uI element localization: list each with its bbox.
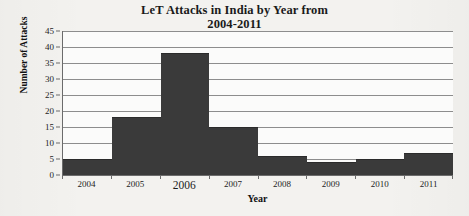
bar-2006 <box>161 53 210 175</box>
y-tick-label-40: 40 <box>24 42 54 52</box>
y-tick-mark-10 <box>56 143 60 144</box>
bar-series <box>63 31 453 175</box>
y-tick-mark-0 <box>56 175 60 176</box>
y-tick-mark-20 <box>56 111 60 112</box>
bar-2008 <box>258 156 307 175</box>
y-tick-mark-15 <box>56 127 60 128</box>
y-tick-label-30: 30 <box>24 74 54 84</box>
x-tick-label-2007: 2007 <box>209 177 258 193</box>
y-tick-label-45: 45 <box>24 26 54 36</box>
chart-page: LeT Attacks in India by Year from 2004-2… <box>0 0 469 216</box>
x-axis-title: Year <box>62 193 453 204</box>
y-tick-mark-30 <box>56 79 60 80</box>
chart-title-line-2: 2004-2011 <box>0 17 469 31</box>
chart-title-line-1: LeT Attacks in India by Year from <box>141 3 328 17</box>
y-tick-label-35: 35 <box>24 58 54 68</box>
y-tick-mark-45 <box>56 31 60 32</box>
y-axis-labels: 051015202530354045 <box>30 31 60 175</box>
y-tick-label-15: 15 <box>24 122 54 132</box>
y-tick-label-0: 0 <box>24 170 54 180</box>
y-tick-label-5: 5 <box>24 154 54 164</box>
x-tick-label-2010: 2010 <box>355 177 404 193</box>
bar-2004 <box>63 159 112 175</box>
y-tick-mark-40 <box>56 47 60 48</box>
bar-2007 <box>209 127 258 175</box>
y-tick-mark-25 <box>56 95 60 96</box>
x-tick-label-2011: 2011 <box>404 177 453 193</box>
y-tick-mark-35 <box>56 63 60 64</box>
y-tick-label-10: 10 <box>24 138 54 148</box>
x-axis-labels: 20042005200620072008200920102011 <box>62 177 453 193</box>
x-tick-label-2009: 2009 <box>306 177 355 193</box>
x-tick-label-2008: 2008 <box>258 177 307 193</box>
plot-area <box>62 31 453 175</box>
bar-2005 <box>112 117 161 175</box>
y-tick-mark-5 <box>56 159 60 160</box>
bar-2011 <box>404 153 453 175</box>
chart-title: LeT Attacks in India by Year from 2004-2… <box>0 3 469 31</box>
bar-2009 <box>307 162 356 175</box>
y-tick-label-20: 20 <box>24 106 54 116</box>
bar-2010 <box>356 159 405 175</box>
y-tick-label-25: 25 <box>24 90 54 100</box>
x-tick-label-2005: 2005 <box>111 177 160 193</box>
x-tick-label-2004: 2004 <box>62 177 111 193</box>
x-tick-label-2006: 2006 <box>160 177 209 193</box>
